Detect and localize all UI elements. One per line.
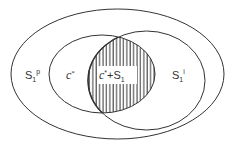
venn-diagram: S1p c* c*+S1 S1i [0,0,235,146]
outer-set-label: S1p [25,68,40,83]
middle-set-label: c* [66,68,75,82]
right-set-label: S1i [172,68,185,83]
